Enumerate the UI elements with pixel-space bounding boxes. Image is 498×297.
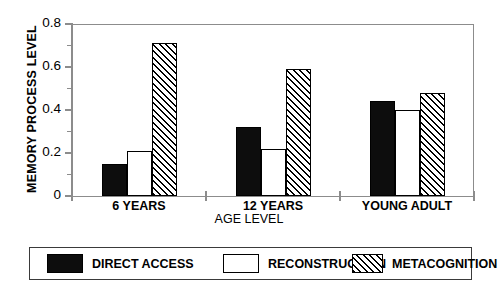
bar-metacognition [286,69,311,196]
y-tick-label: 0.2 [1,144,61,159]
bar-direct [102,164,127,196]
bar-direct [236,127,261,196]
bars-container [72,25,473,196]
plot-area [72,24,474,196]
bar-chart-figure: MEMORY PROCESS LEVEL 00.20.40.60.8 6 YEA… [0,0,498,297]
x-tick-label: 12 YEARS [206,199,340,213]
y-tick-label: 0.4 [1,101,61,116]
x-axis-title: AGE LEVEL [0,212,498,226]
x-tick-label: 6 YEARS [72,199,206,213]
y-tick-label: 0.8 [1,15,61,30]
x-tick-label: YOUNG ADULT [340,199,474,213]
legend-swatch-reconstruction [223,254,259,273]
bar-reconstruction [395,110,420,196]
legend-entry: METACOGNITION [352,254,497,273]
bar-metacognition [420,93,445,196]
y-tick-label: 0 [1,187,61,202]
bar-reconstruction [261,149,286,196]
bar-metacognition [152,43,177,196]
legend-label: METACOGNITION [392,257,497,271]
bar-group [340,25,474,196]
y-tick-label: 0.6 [1,58,61,73]
legend-swatch-direct [47,254,83,273]
legend-label: DIRECT ACCESS [92,257,194,271]
bar-reconstruction [127,151,152,196]
chart-legend: DIRECT ACCESSRECONSTRUCTIONMETACOGNITION [29,247,472,280]
legend-entry: DIRECT ACCESS [47,254,194,273]
legend-swatch-metacognition [352,254,383,273]
bar-direct [370,101,395,196]
bar-group [206,25,340,196]
bar-group [72,25,206,196]
